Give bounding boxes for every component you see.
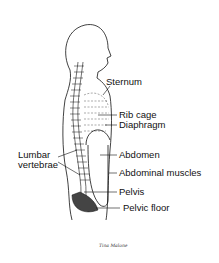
abdomen-outline [88, 145, 108, 206]
label-abdomen: Abdomen [119, 150, 160, 160]
label-abdominal-muscles: Abdominal muscles [119, 168, 201, 178]
rib-cage [84, 93, 109, 131]
label-sternum: Sternum [106, 77, 142, 87]
anatomy-diagram: Sternum Rib cage Diaphragm Lumbar verteb… [0, 0, 219, 263]
label-lumbar-2: vertebrae [18, 160, 58, 170]
artist-signature: Tina Malone [99, 243, 127, 248]
diaphragm-line [86, 130, 110, 145]
back-outline [63, 70, 72, 220]
body-outline-drawing [0, 0, 219, 263]
label-pelvis: Pelvis [119, 187, 144, 197]
label-diaphragm: Diaphragm [119, 120, 165, 130]
label-pelvic-floor: Pelvic floor [123, 203, 169, 213]
front-outline [66, 25, 112, 220]
